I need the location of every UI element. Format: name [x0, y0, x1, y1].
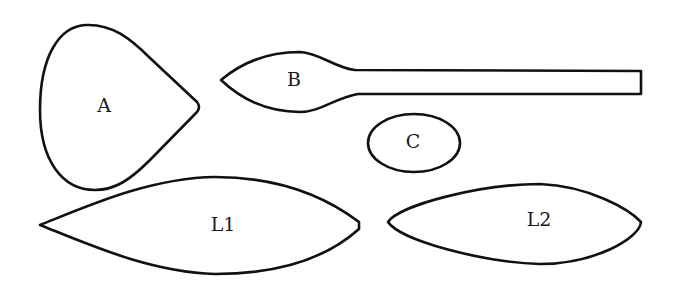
shape-l2: L2 [388, 184, 641, 264]
shape-b-label: B [287, 68, 301, 90]
shape-l2-label: L2 [527, 208, 552, 230]
shape-c: C [368, 114, 460, 172]
shapes-diagram: A B C L1 L2 [0, 0, 675, 298]
shape-l1: L1 [40, 177, 359, 274]
shape-a: A [40, 25, 199, 190]
shape-l1-label: L1 [211, 213, 236, 235]
shape-b: B [221, 52, 641, 112]
shape-a-label: A [96, 94, 111, 116]
shape-l1-outline [40, 177, 359, 274]
shape-a-outline [40, 25, 199, 190]
shape-c-label: C [406, 130, 421, 152]
shape-l2-outline [388, 184, 641, 264]
shape-b-outline [221, 52, 641, 112]
